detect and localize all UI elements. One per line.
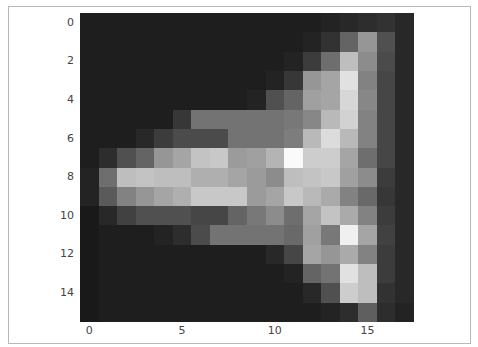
heatmap-cell — [136, 13, 155, 32]
heatmap-cell — [80, 303, 99, 322]
heatmap-cell — [303, 206, 322, 225]
heatmap-cell — [228, 13, 247, 32]
heatmap-cell — [210, 225, 229, 244]
heatmap-cell — [136, 110, 155, 129]
heatmap-cell — [284, 110, 303, 129]
heatmap-cell — [117, 187, 136, 206]
y-tick-label: 4 — [44, 93, 74, 106]
heatmap-cell — [173, 90, 192, 109]
heatmap-cell — [154, 168, 173, 187]
heatmap-cell — [303, 71, 322, 90]
heatmap-cell — [358, 303, 377, 322]
heatmap-cell — [99, 303, 118, 322]
heatmap-cell — [247, 110, 266, 129]
heatmap-cell — [358, 110, 377, 129]
heatmap-cell — [80, 264, 99, 283]
heatmap-cell — [266, 283, 285, 302]
heatmap-cell — [377, 148, 396, 167]
heatmap-cell — [321, 13, 340, 32]
heatmap-cell — [395, 110, 414, 129]
heatmap-cell — [80, 206, 99, 225]
heatmap-cell — [210, 168, 229, 187]
heatmap-cell — [136, 71, 155, 90]
heatmap-cell — [321, 303, 340, 322]
heatmap-cell — [191, 90, 210, 109]
heatmap-cell — [173, 245, 192, 264]
heatmap-cell — [284, 71, 303, 90]
heatmap-cell — [358, 245, 377, 264]
heatmap-cell — [266, 129, 285, 148]
x-tick-label: 5 — [167, 324, 197, 337]
heatmap-cell — [340, 283, 359, 302]
heatmap-cell — [80, 13, 99, 32]
heatmap-cell — [377, 129, 396, 148]
heatmap-cell — [321, 225, 340, 244]
heatmap-cell — [340, 168, 359, 187]
heatmap-cell — [191, 71, 210, 90]
heatmap-cell — [377, 187, 396, 206]
heatmap-cell — [117, 13, 136, 32]
heatmap-cell — [303, 303, 322, 322]
heatmap-cell — [284, 129, 303, 148]
heatmap-cell — [228, 283, 247, 302]
heatmap-cell — [99, 71, 118, 90]
heatmap-cell — [173, 283, 192, 302]
heatmap-cell — [80, 168, 99, 187]
heatmap-cell — [154, 148, 173, 167]
heatmap-cell — [284, 148, 303, 167]
heatmap-cell — [395, 245, 414, 264]
heatmap-cell — [395, 71, 414, 90]
heatmap-cell — [99, 245, 118, 264]
heatmap-cell — [377, 264, 396, 283]
heatmap-cell — [266, 168, 285, 187]
heatmap-cell — [284, 264, 303, 283]
heatmap-cell — [340, 148, 359, 167]
heatmap-cell — [266, 110, 285, 129]
heatmap-cell — [395, 303, 414, 322]
heatmap-cell — [136, 32, 155, 51]
y-tick-label: 8 — [44, 170, 74, 183]
heatmap-cell — [228, 187, 247, 206]
heatmap-cell — [321, 148, 340, 167]
heatmap-cell — [340, 206, 359, 225]
heatmap-cell — [228, 32, 247, 51]
heatmap-cell — [117, 245, 136, 264]
heatmap-cell — [358, 52, 377, 71]
x-tick-label: 10 — [260, 324, 290, 337]
heatmap-cell — [191, 52, 210, 71]
heatmap-cell — [154, 225, 173, 244]
y-tick-label: 2 — [44, 54, 74, 67]
heatmap-cell — [117, 225, 136, 244]
y-tick-label: 10 — [44, 209, 74, 222]
heatmap-cell — [228, 110, 247, 129]
heatmap-cell — [136, 90, 155, 109]
heatmap-cell — [228, 148, 247, 167]
heatmap-cell — [117, 264, 136, 283]
heatmap-cell — [358, 90, 377, 109]
heatmap-cell — [284, 32, 303, 51]
heatmap-cell — [395, 168, 414, 187]
heatmap-cell — [136, 148, 155, 167]
heatmap-cell — [117, 110, 136, 129]
heatmap-cell — [321, 129, 340, 148]
y-tick-label: 6 — [44, 132, 74, 145]
heatmap-cell — [117, 52, 136, 71]
heatmap-cell — [303, 32, 322, 51]
heatmap-cell — [173, 168, 192, 187]
heatmap-cell — [99, 264, 118, 283]
heatmap-cell — [303, 168, 322, 187]
heatmap-cell — [321, 283, 340, 302]
heatmap-cell — [247, 90, 266, 109]
heatmap-cell — [321, 71, 340, 90]
heatmap-cell — [228, 264, 247, 283]
heatmap-cell — [303, 110, 322, 129]
heatmap-cell — [395, 13, 414, 32]
heatmap-cell — [321, 52, 340, 71]
heatmap-cell — [358, 168, 377, 187]
heatmap-cell — [247, 13, 266, 32]
heatmap-cell — [321, 264, 340, 283]
heatmap-cell — [395, 90, 414, 109]
heatmap-cell — [99, 13, 118, 32]
heatmap-cell — [173, 206, 192, 225]
heatmap-cell — [358, 13, 377, 32]
